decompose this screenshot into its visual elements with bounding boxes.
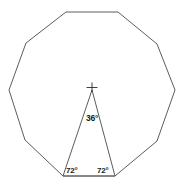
- decagon-outline: [9, 12, 175, 176]
- decagon-diagram-svg: [0, 0, 187, 186]
- geometry-figure: 36° 72° 72°: [0, 0, 187, 186]
- apex-angle-label: 36°: [86, 114, 98, 123]
- triangle-right-leg: [92, 90, 115, 176]
- base-angle-left-label: 72°: [66, 167, 78, 175]
- center-plus-marker: [87, 83, 98, 93]
- triangle-left-leg: [63, 90, 92, 176]
- base-angle-right-label: 72°: [97, 167, 109, 175]
